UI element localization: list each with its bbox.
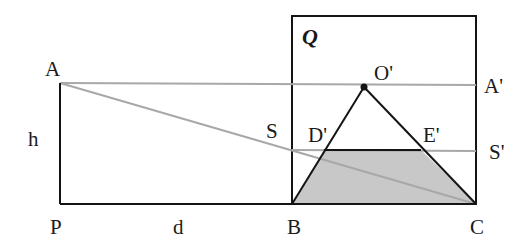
label-o-prime: O' [374,61,393,85]
label-b: B [287,215,301,239]
label-d-prime: D' [308,123,327,147]
diagram-canvas: A h P d B C Q O' A' S D' E' S' [0,0,530,250]
label-e-prime: E' [423,123,440,147]
label-h: h [28,127,39,151]
point-o-prime [361,84,368,91]
label-s: S [266,119,278,143]
label-p: P [50,215,62,239]
label-q: Q [302,24,318,49]
label-c: C [470,215,484,239]
label-s-prime: S' [489,140,504,164]
label-a-prime: A' [484,74,503,98]
label-a: A [45,57,61,81]
label-d: d [173,215,184,239]
guide-line-a-a-prime [60,83,476,85]
diagonal-line-a-c [60,83,476,204]
